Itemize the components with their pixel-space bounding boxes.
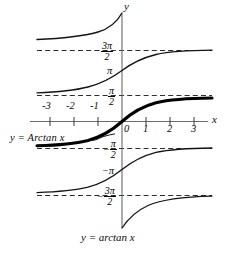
arctan-plot [0, 0, 232, 253]
x-tick-label--3: -3 [42, 101, 51, 112]
arctan-figure: y x 0 -3 -2 -1 1 2 3 3π 2 π π 2 − π 2 [0, 0, 232, 253]
origin-label: 0 [124, 124, 129, 135]
y-tick-label-neg-pi-over-2: − π 2 [103, 139, 117, 160]
y-tick-label-pi-over-2: π 2 [108, 86, 115, 107]
fraction-neg-3pi-over-2: 3π 2 [104, 186, 116, 207]
x-tick-label-1: 1 [143, 124, 148, 135]
curve-branch-plus-pi [37, 50, 212, 93]
curve-branch-minus-pi [37, 148, 212, 193]
y-tick-label-3pi-over-2: 3π 2 [101, 41, 113, 62]
fraction-pi-over-2: π 2 [108, 86, 115, 107]
fraction-denominator: 2 [101, 52, 113, 62]
x-tick-label--2: -2 [66, 101, 75, 112]
x-tick-label-2: 2 [167, 124, 172, 135]
y-tick-sign-neg-3pi-over-2: − [97, 191, 104, 202]
x-axis-label: x [212, 114, 217, 125]
y-tick-sign-neg-pi-over-2: − [103, 144, 110, 155]
y-tick-label-neg-pi: − π [102, 165, 114, 176]
curve-branch-lower-partial [122, 196, 212, 228]
x-tick-label-3: 3 [191, 124, 196, 135]
y-tick-pi-glyph: π [107, 65, 112, 76]
fraction-denominator: 2 [104, 197, 116, 207]
fraction-3pi-over-2: 3π 2 [101, 41, 113, 62]
curve-branch-upper-partial [37, 13, 122, 40]
x-tick-label--1: -1 [90, 101, 99, 112]
fraction-denominator: 2 [108, 97, 115, 107]
y-tick-label-neg-3pi-over-2: − 3π 2 [97, 186, 116, 207]
principal-branch-callout: y = Arctan x [10, 133, 65, 144]
fraction-denominator: 2 [110, 150, 117, 160]
figure-caption: y = arctan x [81, 232, 135, 243]
y-tick-label-pi: π [107, 65, 112, 76]
y-tick-sign-neg-pi: − [102, 165, 109, 176]
y-tick-neg-pi-symbol: π [109, 165, 114, 176]
y-axis-label: y [124, 1, 129, 12]
fraction-neg-pi-over-2: π 2 [110, 139, 117, 160]
